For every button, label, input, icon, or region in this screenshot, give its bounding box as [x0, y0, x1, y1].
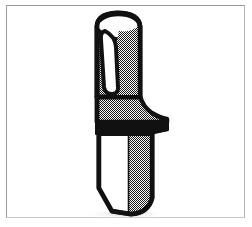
knife-illustration [0, 0, 252, 227]
blade-shaded-face [129, 134, 150, 212]
bolster-guard [97, 96, 167, 122]
illustration-canvas: Knife with hollow tubular handle [0, 0, 252, 227]
